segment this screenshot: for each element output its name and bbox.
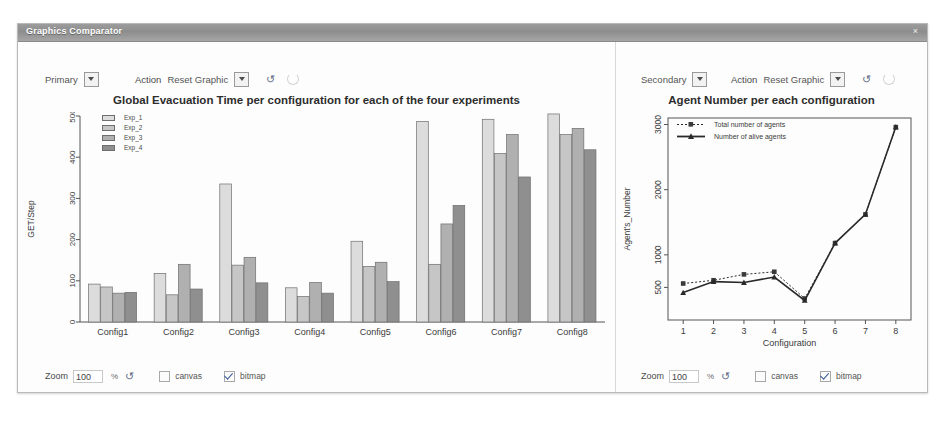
primary-bitmap-checkbox[interactable]: bitmap [224,371,266,382]
svg-text:3: 3 [741,326,746,336]
primary-bottom-bar: Zoom 100 % ↺ canvas bitmap [18,368,615,384]
secondary-chart-area: Agent Number per each configuration 5001… [616,92,927,350]
chevron-down-icon[interactable] [830,72,845,87]
svg-text:Agent's_Number: Agent's_Number [622,187,632,250]
bar-chart-plot: 0100200300400500GET/StepConfig1Config2Co… [18,112,611,350]
legend-item: Total number of agents [676,120,786,129]
legend-item: Exp_2 [102,124,142,131]
secondary-pane: Secondary Action Reset Graphic ↺ Agent N… [616,42,927,392]
svg-text:6: 6 [833,326,838,336]
secondary-percent-label: % [707,372,714,381]
svg-text:8: 8 [893,326,898,336]
secondary-zoom-input[interactable]: 100 [669,370,699,383]
chevron-down-icon[interactable] [692,72,707,87]
chevron-down-icon[interactable] [84,72,99,87]
line-chart-plot: 500100020003000Agent's_Number12345678Con… [616,112,921,350]
legend-marker [676,120,706,129]
primary-source-select[interactable]: Primary [45,72,123,87]
legend-item: Exp_4 [102,144,142,151]
legend-swatch [102,135,115,141]
secondary-action-select[interactable]: Reset Graphic [763,72,855,87]
secondary-source-select[interactable]: Secondary [641,72,719,87]
primary-action-label: Action [135,74,161,85]
svg-text:500: 500 [68,112,77,123]
checkbox-box [159,371,170,382]
secondary-action-value: Reset Graphic [763,74,824,85]
primary-pane: Primary Action Reset Graphic ↺ Global Ev… [18,42,616,392]
svg-text:2: 2 [711,326,716,336]
legend-label: Number of alive agents [714,133,786,140]
svg-text:Config5: Config5 [360,327,391,337]
svg-text:Config1: Config1 [97,327,128,337]
refresh-icon[interactable]: ↺ [266,73,278,85]
spinner-icon [287,73,299,85]
legend-item: Number of alive agents [676,132,786,141]
legend-label: Exp_1 [124,114,142,121]
primary-action-value: Reset Graphic [167,74,228,85]
svg-text:4: 4 [772,326,777,336]
legend-label: Exp_3 [124,134,142,141]
secondary-bitmap-label: bitmap [836,371,862,381]
svg-text:300: 300 [68,191,77,205]
checkbox-box [820,371,831,382]
legend-item: Exp_3 [102,134,142,141]
primary-zoom-input[interactable]: 100 [73,370,103,383]
svg-text:200: 200 [68,232,77,246]
panes-container: Primary Action Reset Graphic ↺ Global Ev… [18,42,927,392]
window-title: Graphics Comparator [26,26,122,36]
svg-text:5: 5 [802,326,807,336]
legend-label: Total number of agents [714,121,785,128]
svg-text:500: 500 [653,280,663,294]
bar-chart-legend: Exp_1Exp_2Exp_3Exp_4 [102,114,142,154]
legend-swatch [102,115,115,121]
svg-text:Configuration: Configuration [763,338,817,348]
secondary-bottom-bar: Zoom 100 % ↺ canvas bitmap [616,368,927,384]
svg-text:7: 7 [863,326,868,336]
legend-swatch [102,145,115,151]
line-chart-legend: Total number of agentsNumber of alive ag… [676,120,786,144]
refresh-icon[interactable]: ↺ [721,370,733,382]
svg-text:GET/Step: GET/Step [26,200,36,238]
legend-item: Exp_1 [102,114,142,121]
svg-text:100: 100 [68,274,77,288]
close-icon[interactable]: × [911,27,920,36]
primary-action-select[interactable]: Reset Graphic [167,72,259,87]
primary-toolbar: Primary Action Reset Graphic ↺ [18,68,615,90]
legend-swatch [102,125,115,131]
primary-canvas-label: canvas [175,371,202,381]
legend-marker [676,132,706,141]
refresh-icon[interactable]: ↺ [862,73,874,85]
secondary-canvas-checkbox[interactable]: canvas [755,371,798,382]
svg-text:Config6: Config6 [425,327,456,337]
legend-label: Exp_2 [124,124,142,131]
secondary-chart-title: Agent Number per each configuration [616,94,927,106]
svg-text:1000: 1000 [653,245,663,264]
svg-text:400: 400 [68,150,77,164]
primary-canvas-checkbox[interactable]: canvas [159,371,202,382]
primary-bitmap-label: bitmap [240,371,266,381]
secondary-bitmap-checkbox[interactable]: bitmap [820,371,862,382]
primary-source-value: Primary [45,74,78,85]
svg-text:2000: 2000 [653,180,663,199]
legend-label: Exp_4 [124,144,142,151]
secondary-toolbar: Secondary Action Reset Graphic ↺ [616,68,927,90]
checkbox-box [224,371,235,382]
refresh-icon[interactable]: ↺ [125,370,137,382]
secondary-action-label: Action [731,74,757,85]
secondary-source-value: Secondary [641,74,686,85]
svg-text:Config8: Config8 [557,327,588,337]
svg-text:Config7: Config7 [491,327,522,337]
svg-text:Config3: Config3 [229,327,260,337]
secondary-zoom-label: Zoom [641,371,664,381]
spinner-icon [883,73,895,85]
checkbox-box [755,371,766,382]
primary-percent-label: % [111,372,118,381]
svg-text:Config4: Config4 [294,327,325,337]
secondary-canvas-label: canvas [771,371,798,381]
primary-chart-area: Global Evacuation Time per configuration… [18,92,615,350]
svg-text:1: 1 [681,326,686,336]
graphics-comparator-window: Graphics Comparator × Primary Action Res… [17,23,928,393]
chevron-down-icon[interactable] [234,72,249,87]
svg-text:Config2: Config2 [163,327,194,337]
primary-chart-title: Global Evacuation Time per configuration… [18,94,615,106]
